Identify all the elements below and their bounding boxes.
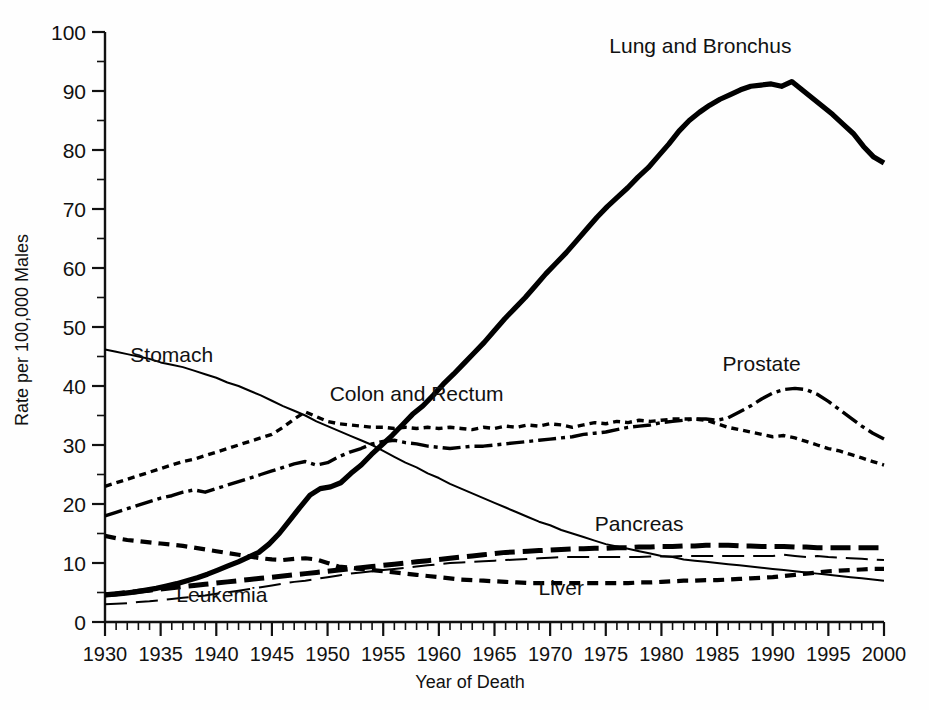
- series-label-prostate: Prostate: [722, 352, 800, 375]
- series-label-colon-and-rectum: Colon and Rectum: [330, 382, 504, 405]
- x-axis-tick-labels: 1930193519401945195019551960196519701975…: [83, 643, 907, 665]
- y-tick-label: 10: [63, 552, 86, 575]
- series-label-liver: Liver: [539, 576, 585, 599]
- x-tick-label: 1930: [83, 643, 128, 665]
- x-tick-label: 1945: [250, 643, 295, 665]
- y-tick-label: 80: [63, 139, 86, 162]
- chart-container: 0102030405060708090100 19301935194019451…: [0, 0, 929, 710]
- x-tick-label: 1940: [194, 643, 239, 665]
- y-tick-label: 60: [63, 257, 86, 280]
- y-tick-label: 70: [63, 198, 86, 221]
- x-tick-label: 1960: [417, 643, 462, 665]
- x-tick-label: 1955: [361, 643, 406, 665]
- x-tick-label: 1935: [138, 643, 183, 665]
- x-tick-label: 1995: [806, 643, 851, 665]
- x-tick-label: 1950: [305, 643, 350, 665]
- y-tick-label: 0: [74, 611, 86, 634]
- y-tick-label: 90: [63, 80, 86, 103]
- series-label-stomach: Stomach: [130, 343, 213, 366]
- y-tick-label: 50: [63, 316, 86, 339]
- x-tick-label: 2000: [862, 643, 907, 665]
- y-tick-label: 100: [51, 21, 86, 44]
- y-tick-label: 30: [63, 434, 86, 457]
- y-tick-label: 40: [63, 375, 86, 398]
- x-tick-label: 1985: [695, 643, 740, 665]
- x-tick-label: 1980: [639, 643, 684, 665]
- x-tick-label: 1970: [528, 643, 573, 665]
- x-axis-title: Year of Death: [415, 672, 524, 692]
- x-tick-label: 1965: [472, 643, 517, 665]
- series-label-leukemia: Leukemia: [176, 583, 267, 606]
- cancer-death-rate-line-chart: 0102030405060708090100 19301935194019451…: [0, 0, 929, 710]
- y-axis-title: Rate per 100,000 Males: [12, 234, 32, 426]
- series-label-lung-and-bronchus: Lung and Bronchus: [609, 34, 791, 57]
- x-tick-label: 1975: [584, 643, 629, 665]
- y-tick-label: 20: [63, 493, 86, 516]
- series-label-pancreas: Pancreas: [595, 512, 684, 535]
- x-tick-label: 1990: [750, 643, 795, 665]
